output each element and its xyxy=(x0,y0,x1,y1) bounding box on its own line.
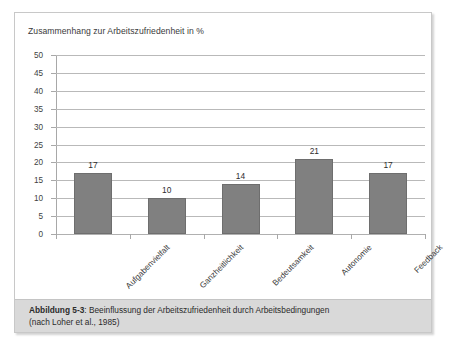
y-tick-label: 50 xyxy=(13,51,43,60)
x-tick-mark xyxy=(204,234,205,239)
gridline xyxy=(56,55,425,56)
bar xyxy=(74,173,112,234)
x-category-label: Ganzheitlichkeit xyxy=(198,243,245,290)
gridline xyxy=(56,234,425,235)
y-tick-label: 15 xyxy=(13,176,43,185)
x-category-label: Feedback xyxy=(413,243,445,275)
bar-value-label: 14 xyxy=(236,171,245,181)
caption-text: Beeinflussung der Arbeitszufriedenheit d… xyxy=(89,305,329,315)
bar xyxy=(148,198,186,234)
gridline xyxy=(56,145,425,146)
x-category-label: Aufgabenvielfalt xyxy=(124,243,172,291)
y-tick-label: 0 xyxy=(13,230,43,239)
bar-value-label: 21 xyxy=(310,146,319,156)
x-tick-mark xyxy=(56,234,57,239)
caption-line-1: Abbildung 5-3: Beeinflussung der Arbeits… xyxy=(29,305,431,317)
y-tick-label: 30 xyxy=(13,122,43,131)
bar-value-label: 17 xyxy=(383,160,392,170)
x-category-label: Autonomie xyxy=(340,243,374,277)
gridline xyxy=(56,91,425,92)
caption-line-2: (nach Loher et al., 1985) xyxy=(29,317,431,329)
bar xyxy=(295,159,333,234)
x-tick-mark xyxy=(351,234,352,239)
bar-value-label: 17 xyxy=(88,160,97,170)
chart-title: Zusammenhang zur Arbeitszufriedenheit in… xyxy=(28,26,204,36)
bar xyxy=(222,184,260,234)
gridline xyxy=(56,127,425,128)
bar xyxy=(369,173,407,234)
caption-label: Abbildung 5-3 xyxy=(29,305,84,315)
y-tick-label: 35 xyxy=(13,104,43,113)
x-tick-mark xyxy=(425,234,426,239)
x-category-label: Bedeutsamkeit xyxy=(270,243,315,288)
y-tick-label: 5 xyxy=(13,212,43,221)
gridline xyxy=(56,109,425,110)
y-tick-label: 45 xyxy=(13,68,43,77)
y-tick-label: 20 xyxy=(13,158,43,167)
x-tick-mark xyxy=(130,234,131,239)
y-tick-label: 40 xyxy=(13,86,43,95)
y-tick-label: 25 xyxy=(13,140,43,149)
gridline xyxy=(56,162,425,163)
figure-caption: Abbildung 5-3: Beeinflussung der Arbeits… xyxy=(15,299,431,332)
figure-container: Zusammenhang zur Arbeitszufriedenheit in… xyxy=(14,12,432,333)
bar-value-label: 10 xyxy=(162,185,171,195)
x-tick-mark xyxy=(277,234,278,239)
plot-area: 1710142117 xyxy=(56,55,425,234)
gridline xyxy=(56,73,425,74)
y-tick-label: 10 xyxy=(13,194,43,203)
